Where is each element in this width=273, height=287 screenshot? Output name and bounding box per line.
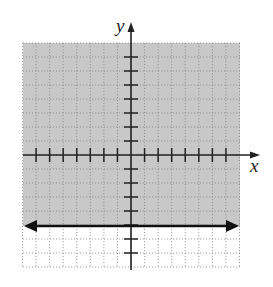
y-axis-arrow-icon: [128, 22, 135, 32]
x-axis-label: x: [249, 155, 259, 176]
graph: y x: [0, 0, 273, 287]
y-axis-label: y: [114, 15, 125, 36]
